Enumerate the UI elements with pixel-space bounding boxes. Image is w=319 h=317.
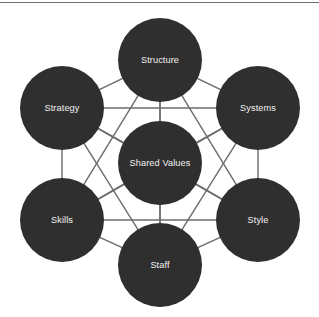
diagram-page: StructureSystemsStyleStaffSkillsStrategy… [0, 0, 319, 317]
node-structure[interactable]: Structure [118, 18, 202, 102]
node-label-style: Style [248, 215, 269, 225]
node-label-shared-values: Shared Values [130, 158, 191, 168]
node-label-structure: Structure [141, 55, 179, 65]
node-label-staff: Staff [150, 260, 170, 270]
node-label-strategy: Strategy [44, 103, 79, 113]
node-systems[interactable]: Systems [216, 66, 300, 150]
edge-staff-to-skills [99, 237, 122, 248]
node-style[interactable]: Style [216, 178, 300, 262]
node-skills[interactable]: Skills [20, 178, 104, 262]
node-shared-values[interactable]: Shared Values [118, 121, 202, 205]
node-strategy[interactable]: Strategy [20, 66, 104, 150]
seven-s-network-diagram: StructureSystemsStyleStaffSkillsStrategy… [0, 0, 319, 317]
edge-structure-to-systems [197, 78, 221, 90]
node-label-systems: Systems [240, 103, 276, 113]
node-staff[interactable]: Staff [118, 223, 202, 307]
node-label-skills: Skills [51, 215, 73, 225]
edge-structure-to-strategy [99, 78, 123, 90]
edge-style-to-staff [197, 237, 220, 248]
